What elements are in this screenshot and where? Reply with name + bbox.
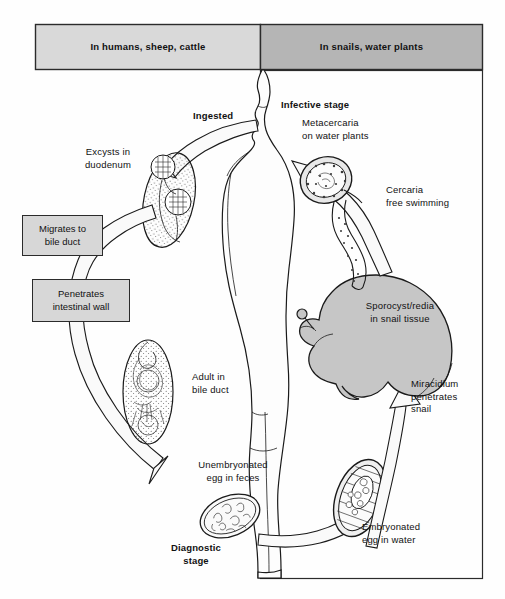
cercaria-line-2: free swimming <box>386 197 449 208</box>
unembryonated-line-1: Unembryonated <box>198 459 268 470</box>
metacercaria-line-1: Metacercaria <box>302 117 359 128</box>
life-cycle-figure: .ol { fill:none; stroke:#1a1a1a; stroke-… <box>0 0 505 599</box>
callout-box-migrates-to-bile-duct: Migrates to bile duct <box>22 215 103 256</box>
callout-box-penetrates-intestinal-wall: Penetrates intestinal wall <box>32 279 130 322</box>
stage-label-ingested: Ingested <box>193 110 233 123</box>
adult-fluke-organism <box>123 340 173 444</box>
annotation-miracidium: Miracidium penetrates snail <box>411 378 458 416</box>
miracidium-line-2: penetrates <box>411 391 457 402</box>
header-label-right: In snails, water plants <box>261 41 482 52</box>
annotation-adult: Adult in bile duct <box>192 371 229 396</box>
adult-line-2: bile duct <box>192 384 229 395</box>
metacercaria-line-2: on water plants <box>302 130 369 141</box>
stage-label-infective: Infective stage <box>281 99 349 112</box>
migrates-line-1: Migrates to <box>39 223 86 234</box>
migrates-line-2: bile duct <box>45 236 80 247</box>
adult-line-1: Adult in <box>192 371 225 382</box>
unembryonated-line-2: egg in feces <box>206 472 259 483</box>
annotation-excysts: Excysts in duodenum <box>62 146 154 171</box>
excysts-line-2: duodenum <box>85 159 131 170</box>
annotation-unembryonated: Unembryonated egg in feces <box>181 459 285 484</box>
excysts-line-1: Excysts in <box>86 146 130 157</box>
annotation-metacercaria: Metacercaria on water plants <box>302 117 369 142</box>
sporocyst-line-1: Sporocyst/redia <box>366 300 434 311</box>
diagnostic-text-1: Diagnostic <box>171 542 221 553</box>
annotation-cercaria: Cercaria free swimming <box>386 184 449 209</box>
embryonated-line-2: egg in water <box>362 534 416 545</box>
annotation-embryonated: Embryonated egg in water <box>362 521 420 546</box>
sporocyst-line-2: in snail tissue <box>370 313 429 324</box>
penetrates-line-1: Penetrates <box>58 288 104 299</box>
cercaria-line-1: Cercaria <box>386 184 423 195</box>
penetrates-line-2: intestinal wall <box>53 301 110 312</box>
diagnostic-text-2: stage <box>183 555 209 566</box>
header-label-left: In humans, sheep, cattle <box>36 41 260 52</box>
miracidium-line-1: Miracidium <box>411 378 458 389</box>
embryonated-line-1: Embryonated <box>362 521 420 532</box>
miracidium-line-3: snail <box>411 403 431 414</box>
stage-label-diagnostic: Diagnostic stage Diagnostic stage <box>153 542 239 567</box>
annotation-sporocyst: Sporocyst/redia in snail tissue <box>347 300 453 325</box>
